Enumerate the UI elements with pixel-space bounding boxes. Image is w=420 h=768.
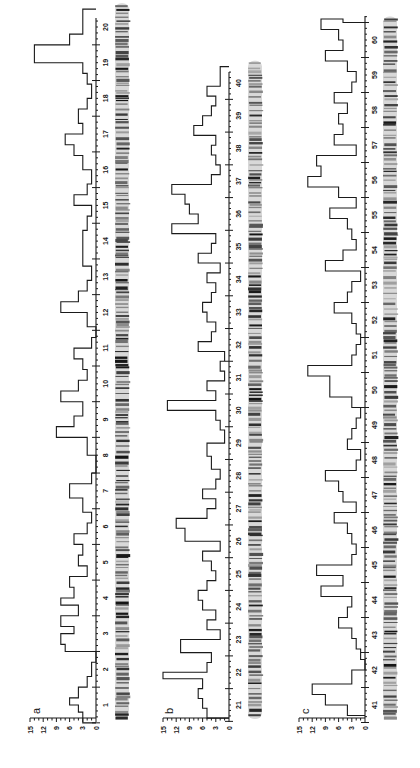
scale-tick-label: 0 xyxy=(362,726,369,730)
division-label: 42 xyxy=(371,666,378,674)
division-label: 36 xyxy=(235,210,242,218)
scale-tick-label: 6 xyxy=(66,726,73,730)
division-label: 24 xyxy=(235,603,242,611)
chromosome-band-image xyxy=(248,61,263,719)
division-label: 38 xyxy=(235,144,242,152)
division-label: 8 xyxy=(102,453,109,457)
scale-tick-label: 0 xyxy=(226,726,233,730)
division-label: 60 xyxy=(371,36,378,44)
division-label: 4 xyxy=(102,596,109,600)
division-label: 46 xyxy=(371,526,378,534)
scale-tick-label: 9 xyxy=(322,726,329,730)
division-label: 58 xyxy=(371,106,378,114)
division-label: 34 xyxy=(235,275,242,283)
division-label: 51 xyxy=(371,351,378,359)
division-label: 54 xyxy=(371,246,378,254)
division-label: 2 xyxy=(102,667,109,671)
division-label: 16 xyxy=(102,166,109,174)
scale-tick-label: 0 xyxy=(93,726,100,730)
division-label: 56 xyxy=(371,176,378,184)
division-label: 10 xyxy=(102,380,109,388)
division-label: 32 xyxy=(235,341,242,349)
division-label: 33 xyxy=(235,308,242,316)
division-label: 5 xyxy=(102,560,109,564)
division-label: 44 xyxy=(371,596,378,604)
scale-tick-label: 12 xyxy=(40,726,47,734)
scale-tick-label: 3 xyxy=(212,726,219,730)
scale-tick-label: 15 xyxy=(160,726,167,734)
chromosome-histogram-figure: 123456789101112131415161718192003691215a… xyxy=(0,0,420,768)
chromosome-band-image xyxy=(383,17,398,720)
chromosome-band-image xyxy=(115,3,130,719)
scale-tick-label: 9 xyxy=(186,726,193,730)
panel-a: 123456789101112131415161718192003691215a xyxy=(27,3,131,734)
division-label: 20 xyxy=(102,23,109,31)
division-label: 18 xyxy=(102,94,109,102)
division-label: 45 xyxy=(371,561,378,569)
panel-label: b xyxy=(163,708,175,714)
panel-label: a xyxy=(30,707,42,714)
division-label: 27 xyxy=(235,505,242,513)
scale-tick-label: 15 xyxy=(27,726,34,734)
scale-tick-label: 3 xyxy=(79,726,86,730)
division-label: 30 xyxy=(235,406,242,414)
division-label: 41 xyxy=(371,701,378,709)
scale-tick-label: 3 xyxy=(348,726,355,730)
division-label: 1 xyxy=(102,703,109,707)
scale-tick-label: 12 xyxy=(309,726,316,734)
scale-tick-label: 6 xyxy=(199,726,206,730)
division-label: 31 xyxy=(235,374,242,382)
division-label: 11 xyxy=(102,344,109,352)
division-label: 6 xyxy=(102,525,109,529)
division-label: 49 xyxy=(371,421,378,429)
scale-tick-label: 12 xyxy=(173,726,180,734)
division-label: 22 xyxy=(235,668,242,676)
division-label: 14 xyxy=(102,237,109,245)
division-label: 35 xyxy=(235,243,242,251)
scale-tick-label: 6 xyxy=(335,726,342,730)
histogram-outline xyxy=(163,67,229,718)
scale-tick-label: 15 xyxy=(296,726,303,734)
division-label: 47 xyxy=(371,491,378,499)
histogram-outline xyxy=(34,9,96,723)
division-label: 19 xyxy=(102,59,109,67)
division-label: 43 xyxy=(371,631,378,639)
histogram-outline xyxy=(308,19,365,716)
panel-b: 2122232425262728293031323334353637383940… xyxy=(160,61,264,734)
division-label: 21 xyxy=(235,701,242,709)
division-label: 53 xyxy=(371,281,378,289)
panel-label: c xyxy=(299,708,311,714)
division-label: 52 xyxy=(371,316,378,324)
division-label: 40 xyxy=(235,79,242,87)
division-label: 55 xyxy=(371,211,378,219)
division-label: 13 xyxy=(102,273,109,281)
division-label: 12 xyxy=(102,308,109,316)
division-label: 7 xyxy=(102,489,109,493)
division-label: 3 xyxy=(102,632,109,636)
division-label: 37 xyxy=(235,177,242,185)
division-label: 15 xyxy=(102,201,109,209)
division-label: 29 xyxy=(235,439,242,447)
division-label: 23 xyxy=(235,636,242,644)
division-label: 9 xyxy=(102,417,109,421)
division-label: 48 xyxy=(371,456,378,464)
division-label: 39 xyxy=(235,112,242,120)
division-label: 25 xyxy=(235,570,242,578)
division-label: 17 xyxy=(102,130,109,138)
division-label: 26 xyxy=(235,537,242,545)
scale-tick-label: 9 xyxy=(53,726,60,730)
division-label: 59 xyxy=(371,71,378,79)
panel-c: 4142434445464748495051525354555657585960… xyxy=(296,16,399,734)
division-label: 28 xyxy=(235,472,242,480)
division-label: 50 xyxy=(371,386,378,394)
division-label: 57 xyxy=(371,141,378,149)
